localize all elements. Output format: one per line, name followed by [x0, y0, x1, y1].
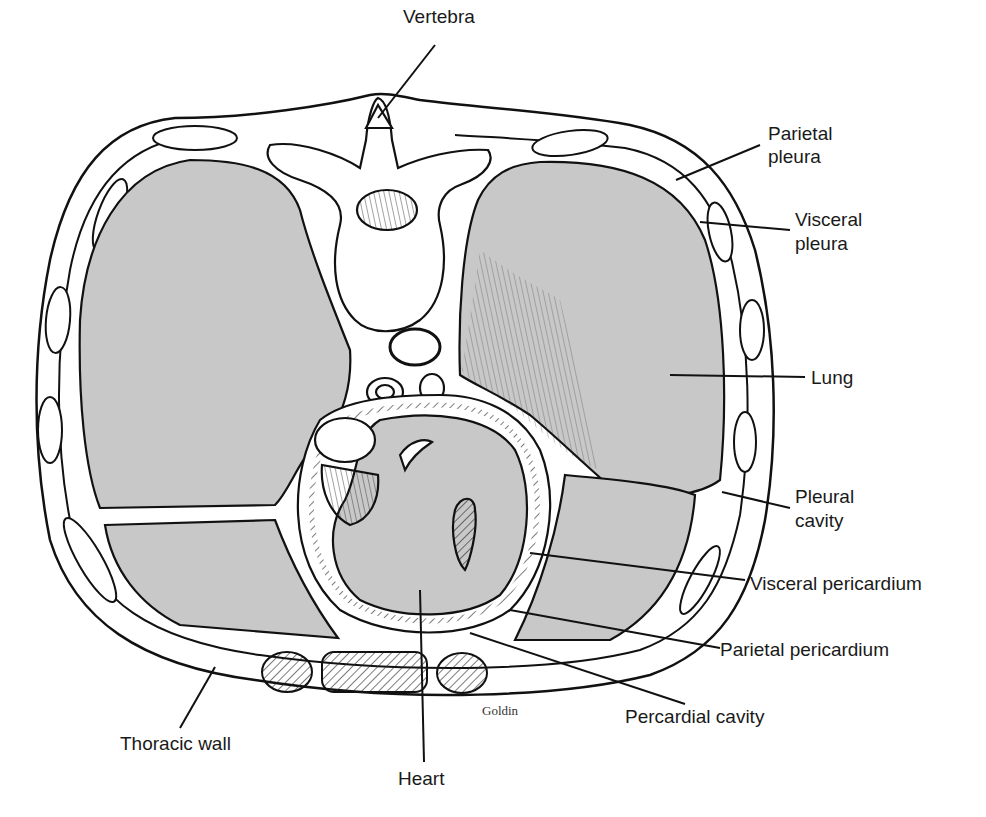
thorax-cross-section-drawing — [0, 0, 986, 817]
label-pleural-cavity-line2: cavity — [795, 509, 844, 532]
label-visceral-pleura-line2: pleura — [795, 232, 848, 255]
label-vertebra: Vertebra — [403, 5, 475, 28]
label-parietal-pleura-line2: pleura — [768, 145, 821, 168]
label-parietal-pleura-line1: Parietal — [768, 122, 832, 145]
label-parietal-pericardium: Parietal pericardium — [720, 638, 889, 661]
label-lung: Lung — [811, 366, 853, 389]
label-heart: Heart — [398, 767, 444, 790]
artist-signature: Goldin — [482, 703, 518, 719]
label-pleural-cavity-line1: Pleural — [795, 485, 854, 508]
label-visceral-pericardium: Visceral pericardium — [750, 572, 922, 595]
label-visceral-pleura-line1: Visceral — [795, 208, 862, 231]
label-thoracic-wall: Thoracic wall — [120, 732, 231, 755]
label-pericardial-cavity: Percardial cavity — [625, 705, 764, 728]
